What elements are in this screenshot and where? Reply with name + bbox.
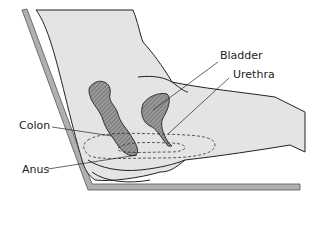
colon-label: Colon (19, 120, 50, 131)
bladder-label: Bladder (220, 50, 263, 61)
urethra-label: Urethra (233, 69, 275, 80)
anus-label: Anus (22, 164, 49, 175)
